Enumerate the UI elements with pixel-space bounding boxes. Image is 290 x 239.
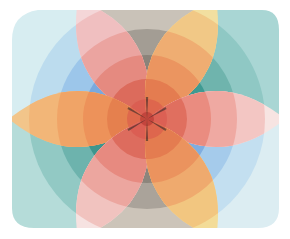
painting — [0, 0, 290, 239]
canvas — [0, 0, 290, 239]
